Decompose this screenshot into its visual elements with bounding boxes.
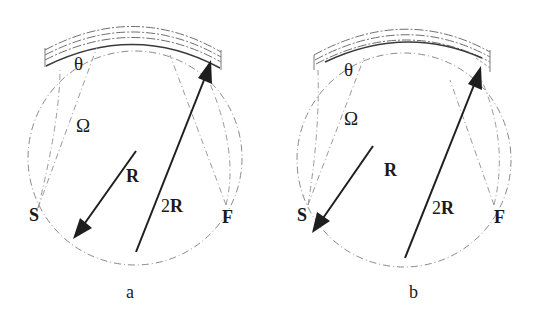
diameter-vector xyxy=(136,75,206,252)
radius-arrowhead-icon xyxy=(312,212,330,233)
rowland-circle xyxy=(28,51,242,265)
focus-label: F xyxy=(494,207,505,227)
panel-b: θ Ω S F R 2R b xyxy=(297,29,511,302)
diagram-canvas: θ Ω S F R 2R a θ Ω S F R 2R b xyxy=(0,0,537,315)
theta-label: θ xyxy=(344,59,353,80)
diameter-arrowhead-icon xyxy=(198,60,212,84)
omega-label: Ω xyxy=(76,115,90,136)
focus-label: F xyxy=(222,207,233,227)
diffracted-ray xyxy=(450,80,494,205)
diffracted-ray xyxy=(170,55,226,205)
panel-a: θ Ω S F R 2R a xyxy=(28,26,242,302)
diffracted-ray-outer xyxy=(205,72,230,205)
bent-crystal xyxy=(314,29,490,72)
source-label: S xyxy=(297,205,307,225)
incident-ray-outer xyxy=(38,68,60,208)
incident-ray xyxy=(308,58,364,205)
radius-label: R xyxy=(384,160,398,180)
incident-ray-outer xyxy=(308,70,318,205)
diameter-arrowhead-icon xyxy=(468,66,482,90)
bent-crystal xyxy=(45,26,221,70)
theta-label: θ xyxy=(74,53,83,74)
diameter-vector xyxy=(405,80,476,258)
radius-vector xyxy=(80,151,136,230)
omega-label: Ω xyxy=(344,108,358,129)
diameter-label: 2R xyxy=(161,196,184,216)
radius-vector xyxy=(319,146,373,224)
radius-label: R xyxy=(126,166,140,186)
panel-caption-b: b xyxy=(409,282,418,302)
diameter-label: 2R xyxy=(432,198,455,218)
source-label: S xyxy=(29,205,39,225)
diffracted-ray-outer xyxy=(478,72,499,205)
panel-caption-a: a xyxy=(126,282,134,302)
radius-arrowhead-icon xyxy=(73,218,92,239)
